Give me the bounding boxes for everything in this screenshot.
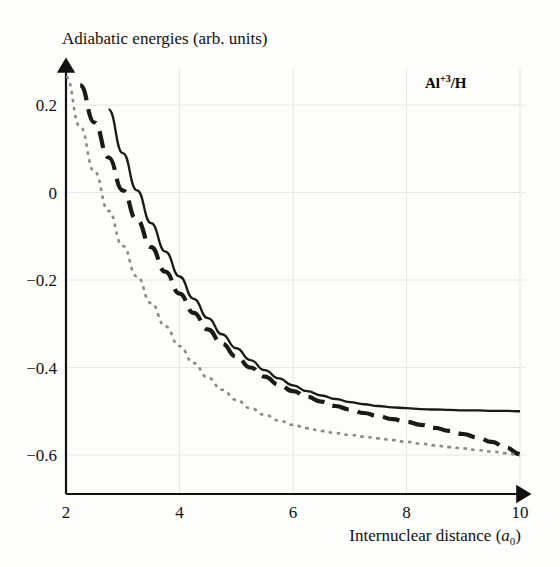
x-axis-title: Internuclear distance (a0) bbox=[349, 526, 521, 547]
x-tick-label: 2 bbox=[62, 503, 71, 522]
chart-background bbox=[0, 0, 560, 567]
y-tick-label: −0.4 bbox=[26, 359, 57, 378]
x-tick-label: 10 bbox=[512, 503, 529, 522]
adiabatic-energies-chart: 0.20−0.2−0.4−0.6 246810 Adiabatic energi… bbox=[0, 0, 560, 567]
x-axis-title-symbol: a bbox=[501, 526, 510, 545]
y-tick-label: 0 bbox=[49, 184, 58, 203]
y-tick-label: −0.2 bbox=[26, 271, 57, 290]
system-label-main: Al bbox=[425, 75, 440, 91]
x-axis-title-main: Internuclear distance ( bbox=[349, 526, 501, 545]
x-tick-label: 4 bbox=[175, 503, 184, 522]
system-label-tail: /H bbox=[450, 75, 467, 91]
figure-container: 0.20−0.2−0.4−0.6 246810 Adiabatic energi… bbox=[0, 0, 560, 567]
x-axis-title-close: ) bbox=[515, 526, 521, 545]
y-tick-label: −0.6 bbox=[26, 446, 57, 465]
system-label-superscript: +3 bbox=[440, 73, 451, 84]
x-tick-label: 6 bbox=[289, 503, 298, 522]
y-tick-label: 0.2 bbox=[36, 96, 57, 115]
y-axis-title: Adiabatic energies (arb. units) bbox=[62, 29, 268, 48]
x-tick-label: 8 bbox=[402, 503, 411, 522]
